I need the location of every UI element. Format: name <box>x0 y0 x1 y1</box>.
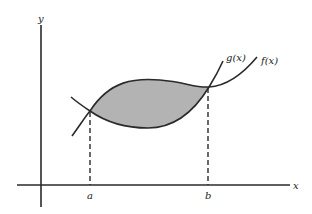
b-label: b <box>205 190 211 201</box>
area-between-curves-diagram: y x a b g(x) f(x) <box>0 0 312 214</box>
a-label: a <box>87 190 93 201</box>
y-axis-label: y <box>37 13 44 24</box>
x-axis-label: x <box>293 180 299 191</box>
g-curve-label: g(x) <box>226 52 246 63</box>
f-curve-label: f(x) <box>260 55 278 66</box>
